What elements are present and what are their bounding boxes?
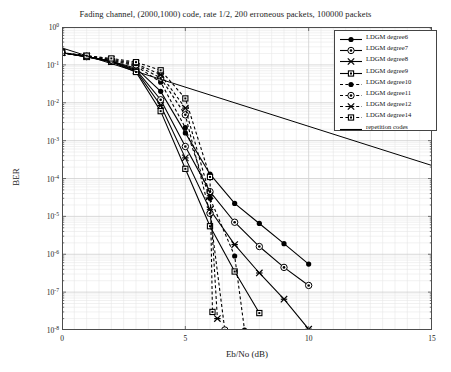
legend-symbol-star-x-icon <box>338 53 364 64</box>
legend-label: LDGM degree14 <box>364 111 411 118</box>
legend-item: LDGM degree9 <box>335 65 436 76</box>
legend-label: LDGM degree11 <box>364 89 411 96</box>
chart-title: Fading channel, (2000,1000) code, rate 1… <box>0 9 451 19</box>
y-axis-ticks: 10010-110-210-310-410-510-610-710-8 <box>26 27 59 330</box>
y-axis-label-wrap: BER <box>17 27 19 330</box>
x-tick-label: 15 <box>428 334 436 343</box>
legend-item: LDGM degree10 <box>335 76 436 87</box>
x-axis-label: Eb/No (dB) <box>62 349 432 359</box>
y-tick-label: 10-3 <box>47 135 59 146</box>
legend-symbol-circle-dot-icon <box>338 42 364 53</box>
y-tick-label: 10-7 <box>47 287 59 298</box>
x-axis-ticks: 051015 <box>62 334 432 348</box>
legend-symbol-line-icon <box>338 121 364 132</box>
legend-item: LDGM degree8 <box>335 53 436 64</box>
legend-label: LDGM degree10 <box>364 78 411 85</box>
legend-item: LDGM degree12 <box>335 98 436 109</box>
y-tick-label: 10-5 <box>47 211 59 222</box>
legend-symbol-star-x-icon <box>338 98 364 109</box>
legend-item: LDGM degree14 <box>335 109 436 120</box>
legend-symbol-filled-circle-icon <box>338 31 364 42</box>
y-tick-label: 100 <box>49 22 59 33</box>
legend-item: LDGM degree7 <box>335 42 436 53</box>
y-tick-label: 10-2 <box>47 98 59 109</box>
legend-label: LDGM degree9 <box>364 67 408 74</box>
legend-item: LDGM degree11 <box>335 87 436 98</box>
legend-label: repetition codes <box>364 123 408 130</box>
x-tick-label: 5 <box>183 334 187 343</box>
legend-symbol-circle-dot-icon <box>338 87 364 98</box>
x-tick-label: 10 <box>305 334 313 343</box>
legend-symbol-filled-circle-icon <box>338 76 364 87</box>
legend-item: repetition codes <box>335 121 436 132</box>
legend-item: LDGM degree6 <box>335 31 436 42</box>
x-tick-label: 0 <box>60 334 64 343</box>
y-tick-label: 10-8 <box>47 325 59 336</box>
legend-symbol-open-square-icon <box>338 109 364 120</box>
legend-label: LDGM degree7 <box>364 44 408 51</box>
y-tick-label: 10-6 <box>47 249 59 260</box>
figure-container: Fading channel, (2000,1000) code, rate 1… <box>0 0 451 372</box>
legend-label: LDGM degree6 <box>364 33 408 40</box>
y-tick-label: 10-4 <box>47 173 59 184</box>
y-tick-label: 10-1 <box>47 60 59 71</box>
legend-label: LDGM degree8 <box>364 55 408 62</box>
y-axis-label: BER <box>11 168 21 186</box>
legend-label: LDGM degree12 <box>364 100 411 107</box>
legend-symbol-open-square-icon <box>338 65 364 76</box>
chart-legend: LDGM degree6LDGM degree7LDGM degree8LDGM… <box>334 30 437 131</box>
